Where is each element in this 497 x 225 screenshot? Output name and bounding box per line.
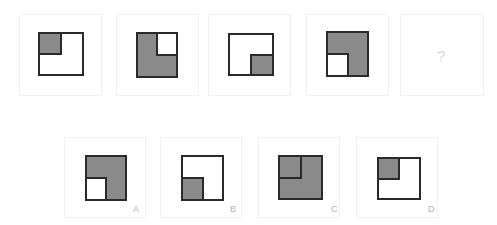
option-label: B <box>230 205 236 214</box>
sequence-panel-5: ? <box>400 14 484 96</box>
figure-square <box>136 32 178 78</box>
figure-square <box>181 155 224 201</box>
option-c[interactable]: C <box>258 137 340 218</box>
shaded-quadrant-top-left <box>379 159 400 180</box>
shaded-quadrant-bottom-left <box>183 177 204 199</box>
sequence-panel-4 <box>306 14 389 96</box>
white-quadrant-bottom-left <box>328 53 349 75</box>
figure-square <box>38 32 84 76</box>
option-a[interactable]: A <box>64 137 146 218</box>
white-quadrant-top-right <box>156 34 176 56</box>
puzzle-stage: ? A B C D <box>0 0 497 225</box>
sequence-panel-2 <box>116 14 199 96</box>
figure-square <box>278 155 323 200</box>
option-d[interactable]: D <box>356 137 438 218</box>
outlined-quadrant-top-left <box>280 157 302 179</box>
shaded-quadrant-top-left <box>40 34 62 55</box>
figure-square <box>377 157 421 200</box>
figure-square <box>326 31 369 77</box>
option-label: C <box>331 205 338 214</box>
option-label: A <box>133 205 139 214</box>
option-b[interactable]: B <box>160 137 242 218</box>
white-quadrant-bottom-left <box>87 177 107 199</box>
figure-square <box>228 33 274 76</box>
sequence-panel-1 <box>19 14 102 96</box>
question-mark: ? <box>437 48 445 63</box>
shaded-quadrant-bottom-right <box>250 54 272 75</box>
sequence-panel-3 <box>208 14 291 96</box>
option-label: D <box>428 205 435 214</box>
figure-square <box>85 155 127 201</box>
